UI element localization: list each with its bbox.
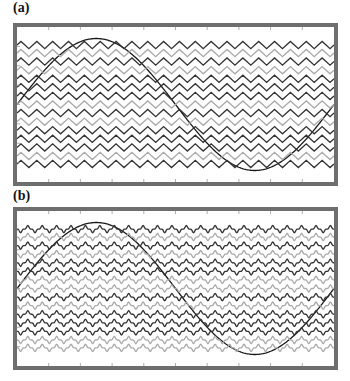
chart-a bbox=[13, 23, 338, 186]
panel-label-a: (a) bbox=[13, 0, 29, 16]
plot-panel-b bbox=[13, 207, 338, 370]
panel-label-b: (b) bbox=[13, 188, 30, 204]
chart-b bbox=[13, 207, 338, 370]
plot-panel-a bbox=[13, 23, 338, 186]
